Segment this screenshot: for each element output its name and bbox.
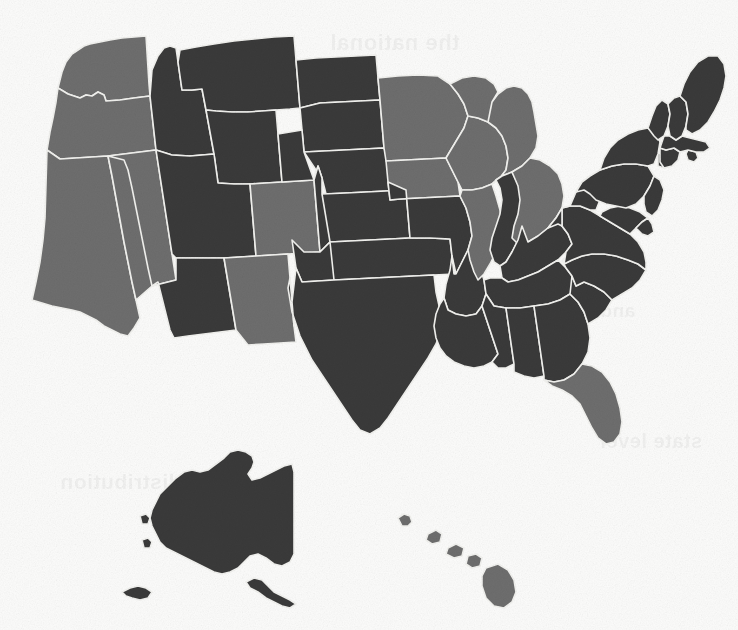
states-layer: WashingtonOregonCaliforniaNevadaIdahoMon… — [32, 36, 726, 608]
choropleth-map-figure: the national of the and distribution sta… — [0, 0, 738, 630]
state-nm[interactable]: New Mexico — [224, 254, 296, 345]
state-ak[interactable]: Alaska — [122, 450, 296, 608]
state-wa[interactable]: Washington — [58, 36, 150, 101]
state-ct[interactable]: Connecticut — [660, 148, 680, 168]
state-sd[interactable]: South Dakota — [300, 100, 384, 152]
state-or[interactable]: Oregon — [47, 88, 156, 159]
state-tx[interactable]: Texas — [288, 268, 442, 434]
state-me[interactable]: Maine — [680, 56, 726, 134]
state-nh[interactable]: New Hampshire — [668, 96, 688, 140]
state-co[interactable]: Colorado — [250, 180, 320, 256]
state-hi[interactable]: Hawaii — [398, 514, 516, 608]
us-states-map: WashingtonOregonCaliforniaNevadaIdahoMon… — [0, 0, 738, 630]
state-ma[interactable]: Massachusetts — [660, 136, 710, 152]
